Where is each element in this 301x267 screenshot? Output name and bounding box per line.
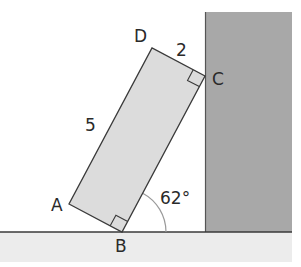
label-side-dc: 2 (176, 40, 187, 60)
label-point-b: B (115, 236, 127, 256)
label-point-c: C (212, 69, 224, 89)
diagram-canvas: A B C D 5 2 62° (0, 0, 301, 267)
label-side-ad: 5 (85, 115, 96, 135)
label-point-d: D (134, 26, 147, 46)
label-point-a: A (51, 195, 63, 215)
floor (0, 232, 292, 262)
label-angle: 62° (160, 188, 190, 208)
wall (205, 12, 292, 232)
diagram-svg: A B C D 5 2 62° (0, 0, 301, 267)
